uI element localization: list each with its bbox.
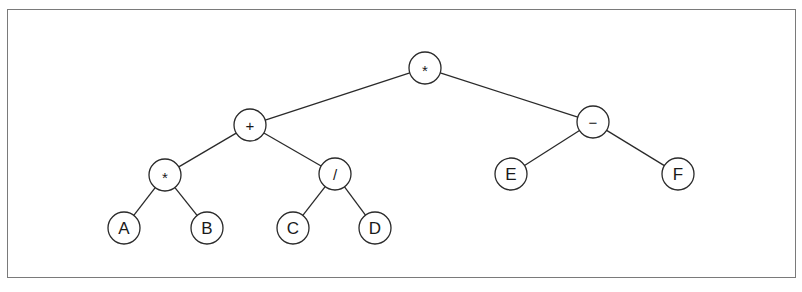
tree-edge [345,187,366,215]
node-label: − [589,114,598,131]
tree-node-operator: − [577,106,609,138]
tree-node-operand: D [359,212,391,244]
expression-tree: *+−*/EFABCD [0,0,802,292]
tree-edge [265,73,410,120]
tree-node-operand: C [277,212,309,244]
tree-edge [303,187,325,216]
tree-node-operator: * [149,159,181,191]
tree-edge [264,133,321,166]
node-label: A [118,219,130,238]
node-label: E [505,165,516,184]
node-label: F [673,165,683,184]
tree-node-operand: A [108,212,140,244]
tree-node-operator: + [234,109,266,141]
node-label: * [422,62,428,79]
node-label: C [287,219,299,238]
tree-node-operator: * [409,52,441,84]
node-label: B [201,219,212,238]
tree-edges [134,73,665,216]
tree-edge [134,188,155,216]
node-label: * [162,169,168,186]
tree-nodes: *+−*/EFABCD [108,52,694,244]
tree-edge [175,188,197,216]
tree-node-operand: B [191,212,223,244]
node-label: D [369,219,381,238]
tree-edge [525,131,580,166]
tree-node-operand: E [495,158,527,190]
tree-edge [607,130,665,165]
tree-node-operand: F [662,158,694,190]
tree-edge [179,133,236,167]
node-label: + [246,117,255,134]
tree-edge [440,73,578,117]
tree-node-operator: / [319,158,351,190]
